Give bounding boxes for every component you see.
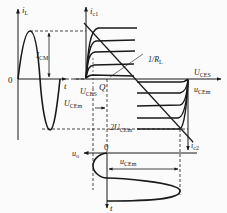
uo-sine-wave <box>93 153 180 201</box>
push-pull-diagram: iL 0 t ICM ic1 UCES 1/RL Q UCES uCEm ic2… <box>0 0 227 213</box>
ucem-bottom-label: uCEm <box>120 157 137 167</box>
ucem-axis-label: uCEm <box>194 85 211 95</box>
origin-label: 0 <box>8 75 13 85</box>
il-sine-wave <box>18 31 60 130</box>
q-point-label: Q <box>99 82 106 92</box>
ic2-curve-4 <box>137 80 188 118</box>
load-line-label: 1/RL <box>148 55 163 65</box>
uces-left-label: UCES <box>80 87 97 97</box>
bottom-t-label: t <box>110 203 113 213</box>
bottom-origin-label: 0 <box>104 142 109 152</box>
il-axis-label: iL <box>22 5 29 16</box>
ucem-dimension-label: UCEm <box>64 99 82 109</box>
uo-axis-label: uo <box>72 149 79 159</box>
ic2-axis-label: ic2 <box>191 141 199 151</box>
ic1-curve-2 <box>86 40 135 78</box>
ic1-axis-label: ic1 <box>90 6 98 17</box>
uces-right-label: UCES <box>194 68 211 78</box>
two-ucem-label: 2UCEm <box>110 123 132 133</box>
icm-label: ICM <box>35 50 49 61</box>
t-axis-label: t <box>64 81 67 91</box>
